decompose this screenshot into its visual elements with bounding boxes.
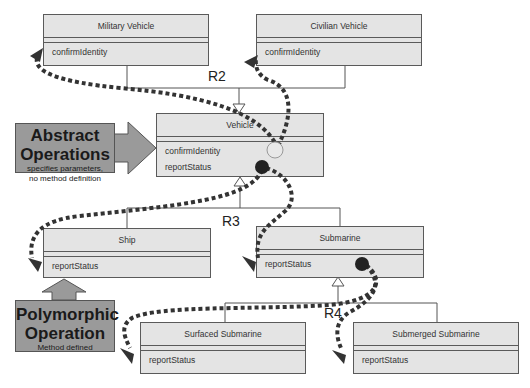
operation-report-status: reportStatus [157,160,323,176]
class-name: Submarine [257,227,423,250]
callout-title-line1: Polymorphic [16,305,114,324]
callout-title-line2: Operations [16,145,114,164]
callout-polymorphic-operation: Polymorphic Operation Method defined [15,300,115,352]
class-name: Vehicle [157,114,323,137]
callout-title-line1: Abstract [16,126,114,145]
class-name: Military Vehicle [44,15,208,38]
operation-confirm-identity: confirmIdentity [157,142,323,160]
operation-report-status: reportStatus [257,255,423,273]
callout-title-line2: Operation [16,324,114,343]
class-name: Ship [44,229,210,252]
callout-desc-line1: specifies parameters, [16,164,114,174]
class-name: Civilian Vehicle [257,15,421,38]
class-name: Surfaced Submarine [141,323,305,346]
relationship-label-r2: R2 [208,68,226,84]
class-name: Submerged Submarine [354,323,518,346]
operation-confirm-identity: confirmIdentity [44,43,208,61]
operation-report-status: reportStatus [44,257,210,275]
operation-report-status: reportStatus [141,351,305,369]
arrowhead-icon [30,48,43,62]
relationship-label-r4: R4 [324,305,342,321]
class-civilian-vehicle[interactable]: Civilian Vehicle confirmIdentity [256,14,422,66]
callout-desc-line1: Method defined [16,343,114,353]
class-vehicle[interactable]: Vehicle confirmIdentity reportStatus [156,113,324,177]
operation-confirm-identity: confirmIdentity [257,43,421,61]
class-ship[interactable]: Ship reportStatus [43,228,211,278]
relationship-label-r3: R3 [222,213,240,229]
callout-abstract-operations: Abstract Operations specifies parameters… [15,123,115,173]
class-submerged-submarine[interactable]: Submerged Submarine reportStatus [353,322,519,374]
callout-desc-line2: no method definition [16,174,114,184]
operation-report-status: reportStatus [354,351,518,369]
class-military-vehicle[interactable]: Military Vehicle confirmIdentity [43,14,209,66]
class-surfaced-submarine[interactable]: Surfaced Submarine reportStatus [140,322,306,374]
class-submarine[interactable]: Submarine reportStatus [256,226,424,278]
